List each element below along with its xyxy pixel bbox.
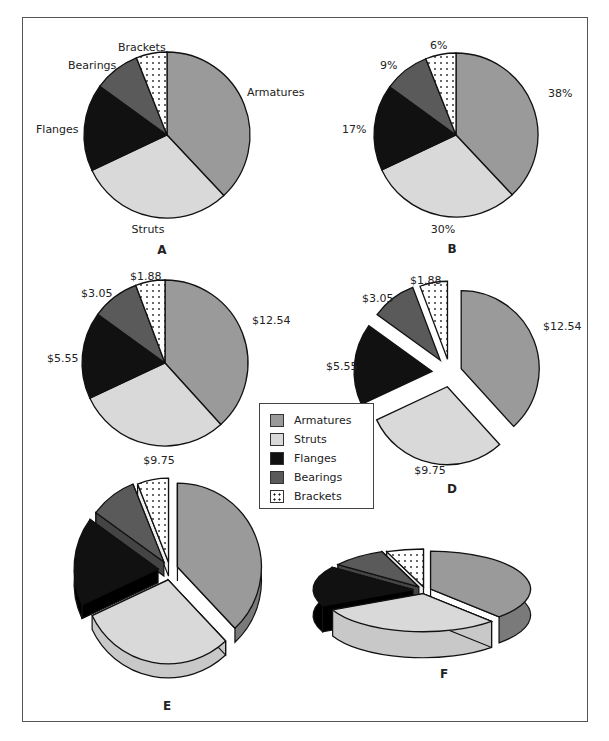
slice-label: 9% — [380, 59, 397, 72]
slice-label: $12.54 — [543, 320, 582, 333]
slice-label: $1.88 — [130, 270, 162, 283]
pie-chart-e-3d: E — [74, 478, 261, 713]
slice-label: $3.05 — [81, 287, 113, 300]
pie-chart-f-3d: F — [313, 549, 531, 681]
legend-item-struts: Struts — [270, 430, 373, 449]
chart-legend: Armatures Struts Flanges Bearings Bracke… — [259, 403, 374, 509]
slice-label: $1.88 — [410, 274, 442, 287]
chart-caption: A — [157, 243, 167, 257]
slice-label: Brackets — [118, 41, 166, 54]
slice-label: $3.05 — [362, 292, 394, 305]
legend-item-armatures: Armatures — [270, 411, 373, 430]
slice-label: Flanges — [36, 123, 79, 136]
slice-label: $5.55 — [326, 360, 358, 373]
legend-label: Struts — [294, 433, 327, 446]
slice-label: 30% — [431, 223, 455, 236]
slice-struts — [377, 387, 500, 465]
chart-caption: B — [447, 242, 456, 256]
pie-chart-b: 38%30%17%9%6%B — [342, 39, 572, 256]
chart-caption: D — [447, 482, 457, 496]
legend-swatch-armatures — [270, 414, 284, 427]
legend-item-bearings: Bearings — [270, 468, 373, 487]
chart-caption: F — [440, 667, 448, 681]
slice-label: $9.75 — [414, 464, 446, 477]
slice-label: $9.75 — [143, 454, 175, 467]
legend-swatch-flanges — [270, 452, 284, 465]
slice-label: 6% — [430, 39, 447, 52]
legend-item-flanges: Flanges — [270, 449, 373, 468]
legend-label: Bearings — [294, 471, 342, 484]
slice-label: Bearings — [68, 59, 117, 72]
legend-swatch-bearings — [270, 471, 284, 484]
slice-armatures — [461, 291, 539, 427]
legend-swatch-struts — [270, 433, 284, 446]
legend-label: Brackets — [294, 490, 342, 503]
slice-label: $5.55 — [47, 352, 79, 365]
pie-charts-canvas: ArmaturesStrutsFlangesBearingsBracketsA … — [0, 0, 609, 741]
chart-caption: E — [163, 699, 171, 713]
slice-label: 38% — [548, 87, 572, 100]
slice-label: $12.54 — [252, 314, 291, 327]
pie-chart-a: ArmaturesStrutsFlangesBearingsBracketsA — [36, 41, 305, 257]
slice-label: Struts — [132, 223, 165, 236]
legend-label: Armatures — [294, 414, 351, 427]
slice-label: Armatures — [247, 86, 305, 99]
pie-chart-c: $12.54$9.75$5.55$3.05$1.88C — [47, 270, 291, 493]
slice-label: 17% — [342, 123, 366, 136]
legend-swatch-brackets — [270, 490, 284, 503]
legend-item-brackets: Brackets — [270, 487, 373, 506]
legend-label: Flanges — [294, 452, 337, 465]
